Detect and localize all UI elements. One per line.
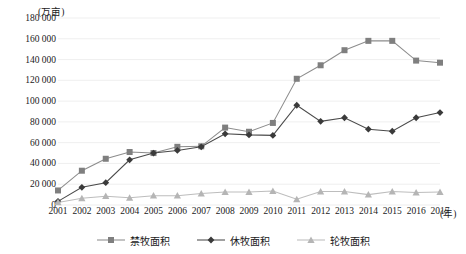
data-point-marker <box>270 120 276 126</box>
x-axis-tick-label: 2004 <box>120 206 139 216</box>
x-axis-tick-label: 2005 <box>144 206 163 216</box>
series-line <box>58 41 440 191</box>
x-axis-tick-label: 2015 <box>383 206 402 216</box>
legend-diamond-icon <box>196 234 226 246</box>
legend-item[interactable]: 休牧面积 <box>196 233 270 248</box>
legend-label: 轮牧面积 <box>330 233 370 248</box>
data-point-marker <box>365 126 372 133</box>
x-axis-tick-label: 2014 <box>359 206 378 216</box>
legend-triangle-icon <box>296 234 326 246</box>
data-point-marker <box>222 125 228 131</box>
x-axis-tick-label: 2002 <box>72 206 91 216</box>
x-axis-tick-labels: (年) 200120022003200420052006200720082009… <box>0 206 466 222</box>
data-point-marker <box>342 47 348 53</box>
x-axis-tick-label: 2003 <box>96 206 115 216</box>
x-axis-tick-label: 2009 <box>240 206 259 216</box>
legend-label: 禁牧面积 <box>130 233 170 248</box>
data-point-marker <box>208 237 215 244</box>
legend-item[interactable]: 禁牧面积 <box>96 233 170 248</box>
x-axis-tick-label: 2011 <box>287 206 306 216</box>
y-axis-tick-label: 20 000 <box>2 179 56 189</box>
data-point-marker <box>78 184 85 191</box>
line-chart: (万亩) 180 000160 000140 000120 000100 000… <box>0 0 466 254</box>
y-axis-tick-label: 180 000 <box>2 13 56 23</box>
y-axis-tick-label: 120 000 <box>2 75 56 85</box>
y-axis-tick-label: 40 000 <box>2 158 56 168</box>
legend-item[interactable]: 轮牧面积 <box>296 233 370 248</box>
data-point-marker <box>341 114 348 121</box>
plot-area <box>58 18 440 205</box>
data-point-marker <box>317 118 324 125</box>
x-axis-tick-label: 2012 <box>311 206 330 216</box>
x-axis-tick-label: 2007 <box>192 206 211 216</box>
legend-label: 休牧面积 <box>230 233 270 248</box>
legend-square-icon <box>96 234 126 246</box>
data-point-marker <box>437 60 443 66</box>
data-point-marker <box>79 168 85 174</box>
y-axis-tick-label: 80 000 <box>2 117 56 127</box>
data-point-marker <box>389 128 396 135</box>
x-axis-tick-label: 2001 <box>49 206 68 216</box>
x-axis-tick-label: 2008 <box>216 206 235 216</box>
series-line <box>58 105 440 201</box>
y-axis-tick-label: 140 000 <box>2 55 56 65</box>
data-point-marker <box>389 38 395 44</box>
data-point-marker <box>127 149 133 155</box>
x-axis-tick-label: 2013 <box>335 206 354 216</box>
series-square <box>55 38 443 194</box>
data-point-marker <box>437 109 444 116</box>
data-point-marker <box>103 156 109 162</box>
chart-legend: 禁牧面积休牧面积轮牧面积 <box>0 230 466 250</box>
plot-svg <box>58 18 440 205</box>
gridlines <box>58 18 440 205</box>
x-axis-tick-label: 2006 <box>168 206 187 216</box>
data-point-marker <box>365 38 371 44</box>
y-axis-tick-label: 100 000 <box>2 96 56 106</box>
x-axis-tick-label: 2010 <box>263 206 282 216</box>
data-point-marker <box>108 237 114 243</box>
data-point-marker <box>413 114 420 121</box>
series-triangle <box>54 187 443 205</box>
y-axis-tick-label: 160 000 <box>2 34 56 44</box>
data-point-marker <box>318 62 324 68</box>
x-axis-tick-label: 2016 <box>407 206 426 216</box>
data-point-marker <box>413 58 419 64</box>
x-axis-tick-label: 2017 <box>431 206 450 216</box>
data-point-marker <box>55 187 61 193</box>
data-point-marker <box>294 76 300 82</box>
y-axis-tick-label: 60 000 <box>2 138 56 148</box>
data-point-marker <box>222 130 229 137</box>
